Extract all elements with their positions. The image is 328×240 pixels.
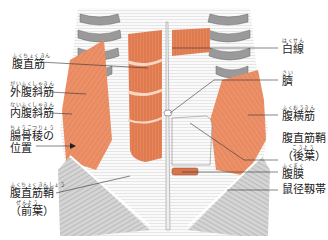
navel <box>164 110 172 116</box>
label-rectus-abdominis: ふくちょくきん 腹直筋 <box>12 53 51 70</box>
label-peritoneum: ふくまく 腹膜 <box>282 163 304 180</box>
label-iliac-crest: ちょうこつりょう 腸骨稜の 位置 <box>10 125 54 154</box>
rectus-abdominis-right-lower <box>172 168 198 175</box>
label-external-oblique: がいふくしゃきん 外腹斜筋 <box>10 81 54 98</box>
label-navel: さい 臍 <box>282 70 293 87</box>
label-internal-oblique: ないふくしゃきん 内腹斜筋 <box>10 102 54 119</box>
label-inguinal-ligament: 鼠径靱帯 <box>282 184 326 195</box>
label-rectus-sheath-posterior: 腹直筋鞘 こうよう （後葉） <box>282 133 326 162</box>
rectus-abdominis-right-upper <box>172 28 210 56</box>
label-transversus-abdominis: ふくおうきん 腹横筋 <box>282 105 315 122</box>
external-oblique-left <box>62 40 112 170</box>
label-linea-alba: はくせん 白線 <box>282 38 304 55</box>
label-rectus-sheath-anterior: ふくちょくきんしょう 腹直筋鞘 ぜんよう （前葉） <box>10 182 65 217</box>
